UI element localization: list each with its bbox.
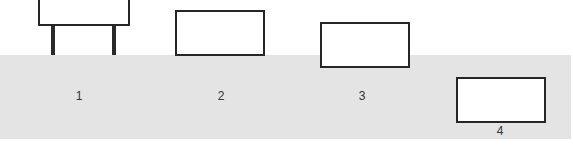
box-1-left-leg: [51, 26, 55, 55]
box-3: [320, 22, 410, 68]
label-4: 4: [490, 124, 510, 138]
box-2: [175, 10, 265, 56]
box-1-right-leg: [112, 26, 116, 55]
label-1: 1: [69, 89, 89, 103]
label-2: 2: [211, 89, 231, 103]
box-1: [38, 0, 130, 26]
label-3: 3: [352, 89, 372, 103]
box-4: [456, 77, 546, 123]
